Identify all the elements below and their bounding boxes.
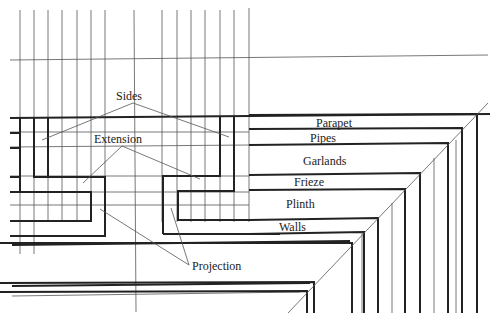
right-thin-verticals [362, 140, 456, 313]
label-frieze: Frieze [294, 175, 324, 189]
label-projection: Projection [192, 259, 241, 273]
label-parapet: Parapet [316, 116, 353, 130]
label-plinth: Plinth [286, 197, 315, 211]
label-walls: Walls [279, 220, 306, 234]
diagram-canvas: Sides Extension Projection Parapet Pipes… [0, 0, 490, 322]
architectural-layer-diagram: Sides Extension Projection Parapet Pipes… [0, 0, 490, 322]
label-pipes: Pipes [310, 131, 336, 145]
label-sides: Sides [116, 89, 142, 103]
nested-frames [0, 114, 477, 313]
label-garlands: Garlands [303, 154, 347, 168]
label-extension: Extension [94, 132, 142, 146]
